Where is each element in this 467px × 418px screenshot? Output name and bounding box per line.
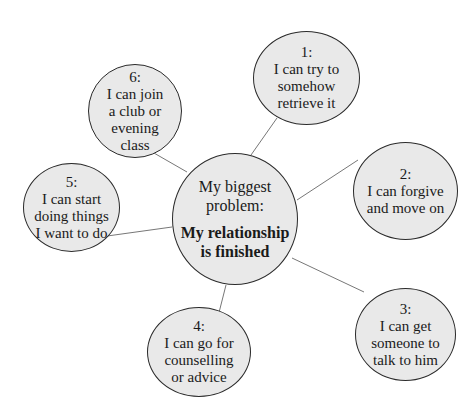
option-text: I can forgive and move on bbox=[367, 183, 444, 217]
connector-1 bbox=[251, 118, 277, 155]
option-text: I can go for counselling or advice bbox=[164, 335, 234, 386]
connector-2 bbox=[297, 160, 358, 200]
option-number: 3: bbox=[400, 301, 412, 318]
option-number: 6: bbox=[129, 69, 141, 86]
option-text: I can join a club or evening class bbox=[107, 86, 164, 154]
option-bubble-3: 3: I can get someone to talk to him bbox=[355, 288, 456, 381]
option-bubble-5: 5: I can start doing things I want to do bbox=[23, 163, 120, 252]
option-number: 2: bbox=[400, 166, 412, 183]
option-number: 4: bbox=[193, 318, 205, 335]
central-problem: My relationship is finished bbox=[181, 223, 290, 261]
option-bubble-2: 2: I can forgive and move on bbox=[353, 142, 458, 240]
option-number: 1: bbox=[301, 44, 313, 61]
option-bubble-4: 4: I can go for counselling or advice bbox=[147, 307, 251, 397]
option-bubble-1: 1: I can try to somehow retrieve it bbox=[253, 31, 360, 125]
option-text: I can start doing things I want to do bbox=[34, 191, 109, 242]
option-number: 5: bbox=[66, 174, 78, 191]
option-text: I can try to somehow retrieve it bbox=[274, 61, 339, 112]
central-title: My biggest problem: bbox=[199, 177, 271, 215]
option-text: I can get someone to talk to him bbox=[371, 318, 440, 369]
option-bubble-6: 6: I can join a club or evening class bbox=[88, 64, 182, 158]
central-problem-bubble: My biggest problem: My relationship is f… bbox=[172, 153, 298, 285]
connector-3 bbox=[292, 258, 364, 292]
